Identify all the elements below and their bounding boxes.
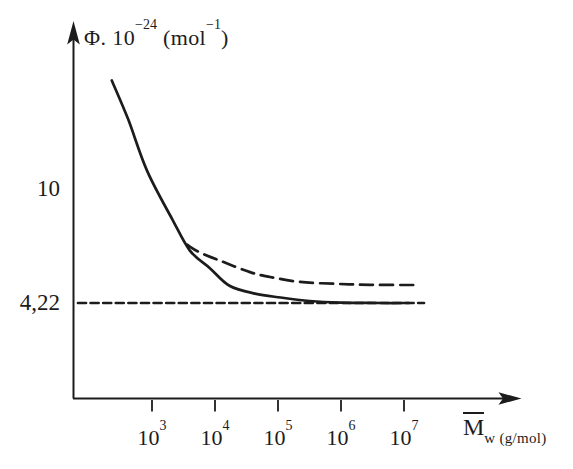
y-tick-label-10: 10 — [37, 176, 60, 202]
y-title-unit-exponent: −1 — [206, 17, 221, 32]
x-tick-base: 10 — [264, 425, 286, 450]
x-tick-label: 103 — [138, 420, 167, 451]
x-tick-exponent: 3 — [160, 418, 167, 433]
x-tick-base: 10 — [327, 425, 349, 450]
mw-subscript-units: w (g/mol) — [484, 430, 546, 446]
y-tick-label-4-22: 4,22 — [20, 290, 60, 316]
x-tick-exponent: 5 — [286, 418, 293, 433]
x-tick-base: 10 — [138, 425, 160, 450]
y-title-exponent: −24 — [135, 17, 157, 32]
solid-curve — [112, 81, 409, 304]
y-title-unit-close: ) — [221, 25, 229, 50]
x-axis-ticks — [152, 400, 404, 412]
chart-figure: Φ. 10−24 (mol−1) 10 4,22 103104105106107… — [0, 0, 573, 469]
x-tick-exponent: 4 — [223, 418, 230, 433]
y-title-base: Φ. 10 — [84, 25, 135, 50]
x-tick-label: 107 — [390, 420, 419, 451]
y-title-unit-open: (mol — [157, 25, 206, 50]
x-tick-exponent: 7 — [412, 418, 419, 433]
x-tick-label: 105 — [264, 420, 293, 451]
x-axis-label: Mw (g/mol) — [463, 412, 547, 445]
y-axis-title: Φ. 10−24 (mol−1) — [84, 25, 229, 51]
x-tick-base: 10 — [201, 425, 223, 450]
plot-canvas — [0, 0, 573, 469]
x-tick-exponent: 6 — [349, 418, 356, 433]
mw-symbol-with-overline: M — [463, 412, 484, 439]
x-tick-label: 106 — [327, 420, 356, 451]
x-tick-base: 10 — [390, 425, 412, 450]
x-tick-label: 104 — [201, 420, 230, 451]
curves-group — [78, 81, 424, 304]
